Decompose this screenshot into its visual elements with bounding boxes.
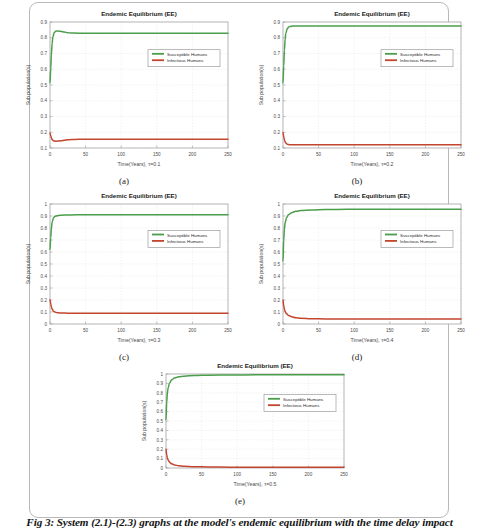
panel-label-e: (e) <box>126 496 354 506</box>
legend-label: Susceptible Humans <box>167 233 208 238</box>
chart-legend[interactable]: Susceptible HumansInfectious Humans <box>148 230 220 247</box>
chart-title: Endemic Equilibrium (EE) <box>101 192 177 199</box>
chart-svg-c: 05010015020025000.10.20.30.40.50.60.70.8… <box>10 186 238 362</box>
x-tick-label: 0 <box>282 152 285 157</box>
x-tick-label: 150 <box>153 152 161 157</box>
chart-title: Endemic Equilibrium (EE) <box>334 192 410 199</box>
x-tick-label: 150 <box>386 152 394 157</box>
x-tick-label: 0 <box>49 152 52 157</box>
y-tick-label: 0.1 <box>274 146 281 151</box>
y-tick-label: 0.8 <box>274 35 281 40</box>
y-tick-label: 0 <box>44 322 47 327</box>
x-tick-label: 0 <box>282 328 285 333</box>
y-tick-label: 1 <box>160 372 163 377</box>
y-tick-label: 0.4 <box>274 98 281 103</box>
y-tick-label: 0.9 <box>41 20 48 25</box>
y-tick-label: 0.9 <box>274 20 281 25</box>
x-tick-label: 100 <box>117 328 125 333</box>
y-tick-label: 0.1 <box>274 310 281 315</box>
x-tick-label: 50 <box>316 328 322 333</box>
x-tick-label: 150 <box>153 328 161 333</box>
chart-svg-e: 05010015020025000.10.20.30.40.50.60.70.8… <box>126 356 354 506</box>
y-tick-label: 0.1 <box>157 456 164 461</box>
y-tick-label: 0 <box>160 466 163 471</box>
y-tick-label: 0.3 <box>41 114 48 119</box>
legend-label: Susceptible Humans <box>167 52 208 57</box>
y-tick-label: 0.1 <box>41 146 48 151</box>
x-tick-label: 250 <box>457 152 465 157</box>
y-axis-label: Sub population(s) <box>25 243 31 284</box>
x-tick-label: 100 <box>233 472 241 477</box>
y-tick-label: 0.7 <box>41 51 48 56</box>
x-tick-label: 50 <box>199 472 205 477</box>
y-tick-label: 0.7 <box>274 238 281 243</box>
x-tick-label: 250 <box>224 328 232 333</box>
y-axis-label: Sub population(s) <box>258 243 264 284</box>
x-axis-label: Time(Years), τ=0.4 <box>350 337 393 343</box>
chart-legend[interactable]: Susceptible HumansInfectious Humans <box>381 230 453 247</box>
y-tick-label: 0.9 <box>274 214 281 219</box>
y-tick-label: 0.4 <box>274 274 281 279</box>
x-tick-label: 250 <box>224 152 232 157</box>
legend-label: Susceptible Humans <box>400 52 441 57</box>
y-tick-label: 0.1 <box>41 310 48 315</box>
x-tick-label: 100 <box>117 152 125 157</box>
y-tick-label: 0.3 <box>157 438 164 443</box>
x-axis-label: Time(Years), τ=0.5 <box>233 481 276 487</box>
y-tick-label: 0.2 <box>41 130 48 135</box>
y-tick-label: 0.8 <box>41 35 48 40</box>
x-axis-label: Time(Years), τ=0.2 <box>350 161 393 167</box>
y-tick-label: 0.8 <box>41 226 48 231</box>
y-tick-label: 0.3 <box>274 114 281 119</box>
panel-label-b: (b) <box>243 176 471 186</box>
x-tick-label: 200 <box>189 152 197 157</box>
y-tick-label: 0.8 <box>157 391 164 396</box>
y-tick-label: 0.3 <box>274 286 281 291</box>
y-tick-label: 0.7 <box>274 51 281 56</box>
y-tick-label: 0.2 <box>274 130 281 135</box>
chart-svg-d: 05010015020025000.10.20.30.40.50.60.70.8… <box>243 186 471 362</box>
x-tick-label: 150 <box>269 472 277 477</box>
y-tick-label: 0.5 <box>274 83 281 88</box>
x-axis-label: Time(Years), τ=0.1 <box>117 161 160 167</box>
chart-svg-b: 0501001502002500.10.20.30.40.50.60.70.80… <box>243 4 471 186</box>
x-tick-label: 250 <box>340 472 348 477</box>
y-tick-label: 0.6 <box>157 409 164 414</box>
chart-legend[interactable]: Susceptible HumansInfectious Humans <box>381 50 453 67</box>
y-tick-label: 0.7 <box>41 238 48 243</box>
chart-title: Endemic Equilibrium (EE) <box>334 10 410 17</box>
plot-panel-b: 0501001502002500.10.20.30.40.50.60.70.80… <box>243 4 471 186</box>
figure-container: 0501001502002500.10.20.30.40.50.60.70.80… <box>0 0 479 530</box>
figure-caption: Fig 3: System (2.1)-(2.3) graphs at the … <box>0 516 479 528</box>
panel-label-a: (a) <box>10 176 238 186</box>
chart-title: Endemic Equilibrium (EE) <box>101 10 177 17</box>
x-tick-label: 200 <box>305 472 313 477</box>
plot-panel-c: 05010015020025000.10.20.30.40.50.60.70.8… <box>10 186 238 362</box>
y-tick-label: 0.2 <box>157 447 164 452</box>
x-tick-label: 150 <box>386 328 394 333</box>
y-tick-label: 0.8 <box>274 226 281 231</box>
y-axis-label: Sub population(s) <box>258 64 264 105</box>
y-axis-label: Sub population(s) <box>141 400 147 441</box>
legend-label: Infectious Humans <box>283 403 320 408</box>
y-tick-label: 0.5 <box>157 419 164 424</box>
x-tick-label: 200 <box>189 328 197 333</box>
x-tick-label: 200 <box>422 328 430 333</box>
x-tick-label: 50 <box>83 152 89 157</box>
y-tick-label: 0.4 <box>157 428 164 433</box>
y-tick-label: 0.6 <box>274 250 281 255</box>
x-tick-label: 100 <box>350 152 358 157</box>
x-tick-label: 50 <box>83 328 89 333</box>
chart-title: Endemic Equilibrium (EE) <box>217 362 293 369</box>
y-tick-label: 0.7 <box>157 400 164 405</box>
chart-svg-a: 0501001502002500.10.20.30.40.50.60.70.80… <box>10 4 238 186</box>
legend-label: Susceptible Humans <box>283 397 324 402</box>
y-tick-label: 0.3 <box>41 286 48 291</box>
x-axis-label: Time(Years), τ=0.3 <box>117 337 160 343</box>
chart-legend[interactable]: Susceptible HumansInfectious Humans <box>148 50 220 67</box>
legend-label: Susceptible Humans <box>400 233 441 238</box>
plot-panel-e: 05010015020025000.10.20.30.40.50.60.70.8… <box>126 356 354 506</box>
chart-legend[interactable]: Susceptible HumansInfectious Humans <box>264 395 336 412</box>
x-tick-label: 200 <box>422 152 430 157</box>
legend-label: Infectious Humans <box>400 58 437 63</box>
